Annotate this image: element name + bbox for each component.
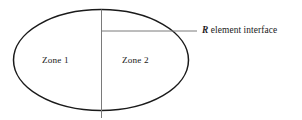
interface-annotation: R element interface <box>202 26 277 35</box>
figure-canvas: Zone 1 Zone 2 R element interface <box>0 0 302 120</box>
zone-1-label: Zone 1 <box>42 56 69 65</box>
zone-2-label: Zone 2 <box>122 56 149 65</box>
interface-label: element interface <box>208 25 277 35</box>
